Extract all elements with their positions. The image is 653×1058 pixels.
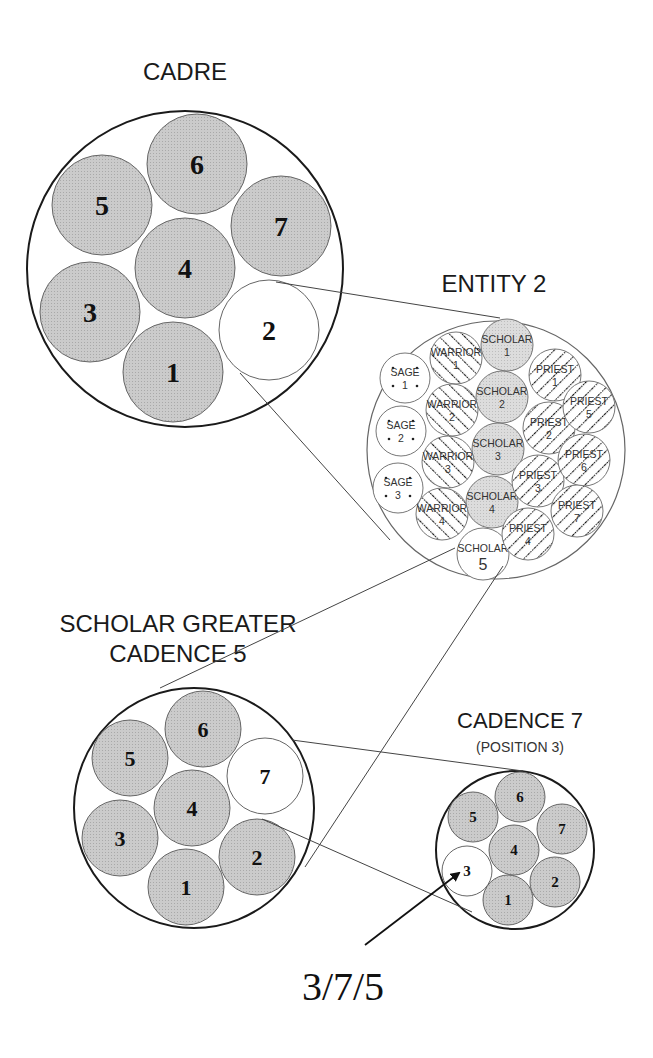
member-number: 1 xyxy=(552,376,558,388)
entity-member-warrior-1: WARRIOR1 xyxy=(430,332,482,384)
member-number: 1 xyxy=(166,357,180,388)
member-circle xyxy=(380,353,430,403)
member-number: 5 xyxy=(586,408,592,420)
member-role: PRIEST xyxy=(558,499,597,511)
cadence-7-circle: 1234567 xyxy=(436,771,594,929)
member-role: SCHOLAR xyxy=(482,333,533,345)
sgc5-member-7: 7 xyxy=(227,738,303,814)
member-number: 4 xyxy=(489,503,495,515)
member-number: 4 xyxy=(178,253,192,284)
member-number: 3 xyxy=(395,489,401,501)
cadence7-member-5: 5 xyxy=(448,792,498,842)
member-circle xyxy=(426,384,478,436)
dot-mark xyxy=(392,385,395,388)
member-number: 6 xyxy=(190,149,204,180)
member-number: 4 xyxy=(187,796,198,821)
cadence7-member-2: 2 xyxy=(530,857,580,907)
cadre-member-7: 7 xyxy=(231,176,331,276)
member-number: 7 xyxy=(260,764,271,789)
member-number: 1 xyxy=(181,875,192,900)
cadre-member-3: 3 xyxy=(40,262,140,362)
member-role: PRIEST xyxy=(565,448,604,460)
sgc5-member-5: 5 xyxy=(92,720,168,796)
entity-member-sage-1: SAGE1 xyxy=(380,353,430,403)
member-number: 5 xyxy=(469,809,477,825)
member-number: 7 xyxy=(274,211,288,242)
entity-member-scholar-2: SCHOLAR2 xyxy=(476,371,528,423)
member-role: WARRIOR xyxy=(431,346,482,358)
sgc5-member-4: 4 xyxy=(154,770,230,846)
member-role: WARRIOR xyxy=(427,398,478,410)
dot-mark xyxy=(409,495,412,498)
entity-member-priest-4: PRIEST4 xyxy=(502,508,554,560)
cadre-member-1: 1 xyxy=(123,322,223,422)
member-role: SAGE xyxy=(386,419,415,431)
member-circle xyxy=(430,332,482,384)
member-number: 2 xyxy=(499,398,505,410)
entity-title: ENTITY 2 xyxy=(442,270,547,297)
entity-member-priest-7: PRIEST7 xyxy=(551,485,603,537)
member-number: 2 xyxy=(546,429,552,441)
member-role: SCHOLAR xyxy=(458,542,509,554)
member-number: 3 xyxy=(463,863,471,879)
member-role: SAGE xyxy=(383,476,412,488)
member-number: 1 xyxy=(453,359,459,371)
entity-member-warrior-2: WARRIOR2 xyxy=(426,384,478,436)
member-circle xyxy=(563,381,615,433)
member-number: 6 xyxy=(516,789,524,805)
member-number: 3 xyxy=(495,450,501,462)
member-number: 4 xyxy=(439,515,445,527)
sgc5-member-2: 2 xyxy=(219,819,295,895)
member-role: PRIEST xyxy=(509,522,548,534)
member-role: SCHOLAR xyxy=(467,490,518,502)
member-number: 5 xyxy=(125,746,136,771)
sgc5-member-6: 6 xyxy=(165,691,241,767)
cadre-title: CADRE xyxy=(143,58,227,85)
member-role: PRIEST xyxy=(519,469,558,481)
member-number: 2 xyxy=(262,315,276,346)
member-circle xyxy=(551,485,603,537)
member-role: WARRIOR xyxy=(417,502,468,514)
member-number: 3 xyxy=(535,482,541,494)
cadre-member-2: 2 xyxy=(219,280,319,380)
scholar-greater-cadence-5-circle: 1234567 xyxy=(74,688,314,928)
member-circle xyxy=(558,434,610,486)
entity-member-scholar-1: SCHOLAR1 xyxy=(481,319,533,371)
cadre-member-4: 4 xyxy=(135,218,235,318)
member-role: WARRIOR xyxy=(423,450,474,462)
sgc5-member-3: 3 xyxy=(82,800,158,876)
member-number: 3 xyxy=(83,297,97,328)
cadence7-subtitle: (POSITION 3) xyxy=(476,739,564,755)
member-number: 2 xyxy=(398,432,404,444)
member-circle xyxy=(422,436,474,488)
entity-member-priest-6: PRIEST6 xyxy=(558,434,610,486)
entity-2-circle: SCHOLAR1SCHOLAR2SCHOLAR3SCHOLAR4SCHOLAR5… xyxy=(367,319,625,580)
member-number: 4 xyxy=(525,535,531,547)
member-number: 5 xyxy=(95,190,109,221)
member-role: SAGE xyxy=(390,366,419,378)
cadence7-member-1: 1 xyxy=(483,875,533,925)
position-arrow xyxy=(365,873,459,945)
member-role: PRIEST xyxy=(570,395,609,407)
member-circle xyxy=(476,371,528,423)
dot-mark xyxy=(412,438,415,441)
cadence7-member-7: 7 xyxy=(537,804,587,854)
member-number: 2 xyxy=(252,845,263,870)
entity-member-warrior-4: WARRIOR4 xyxy=(416,488,468,540)
cadence7-member-4: 4 xyxy=(489,825,539,875)
member-role: PRIEST xyxy=(536,363,575,375)
entity-member-sage-3: SAGE3 xyxy=(373,463,423,513)
member-number: 6 xyxy=(581,461,587,473)
member-circle xyxy=(376,406,426,456)
member-circle xyxy=(373,463,423,513)
entity-member-scholar-5: SCHOLAR5 xyxy=(457,528,509,580)
member-role: SCHOLAR xyxy=(477,385,528,397)
member-number: 3 xyxy=(115,826,126,851)
member-number: 3 xyxy=(445,463,451,475)
member-number: 4 xyxy=(510,842,518,858)
member-circle xyxy=(502,508,554,560)
member-number: 1 xyxy=(504,346,510,358)
member-role: SCHOLAR xyxy=(473,437,524,449)
member-number: 6 xyxy=(198,717,209,742)
entity-member-priest-5: PRIEST5 xyxy=(563,381,615,433)
